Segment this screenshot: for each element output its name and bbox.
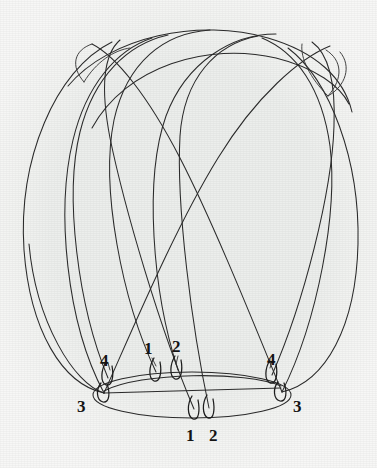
curve-right-b <box>272 42 334 375</box>
curve-right-a <box>262 38 332 392</box>
label-1-lower: 1 <box>186 427 195 444</box>
equator-ellipse <box>93 372 291 418</box>
marker-loop-2-upper <box>171 356 182 379</box>
label-2-upper: 2 <box>172 338 181 355</box>
curve-diagonal-lr <box>104 46 330 393</box>
curve-right-d <box>153 34 276 370</box>
curve-right-c <box>179 36 258 408</box>
curve-diagonal-rl <box>92 44 282 392</box>
curve-bundle-right-3 <box>302 44 328 96</box>
label-2-lower: 2 <box>209 427 218 444</box>
curve-outer-left <box>23 42 112 393</box>
label-3-right: 3 <box>293 398 302 415</box>
label-3-left: 3 <box>77 398 86 415</box>
topology-diagram <box>0 0 377 468</box>
curve-left-b <box>73 35 168 378</box>
tick-2-upper <box>176 356 178 364</box>
curve-left-a <box>65 38 152 393</box>
label-4-right: 4 <box>267 351 276 368</box>
equator-chord <box>104 388 281 393</box>
label-4-left: 4 <box>100 352 109 369</box>
figure-canvas: 1 2 4 4 3 3 1 2 <box>0 0 377 468</box>
curve-top-span-inner <box>92 53 349 128</box>
label-1-upper: 1 <box>144 340 153 357</box>
